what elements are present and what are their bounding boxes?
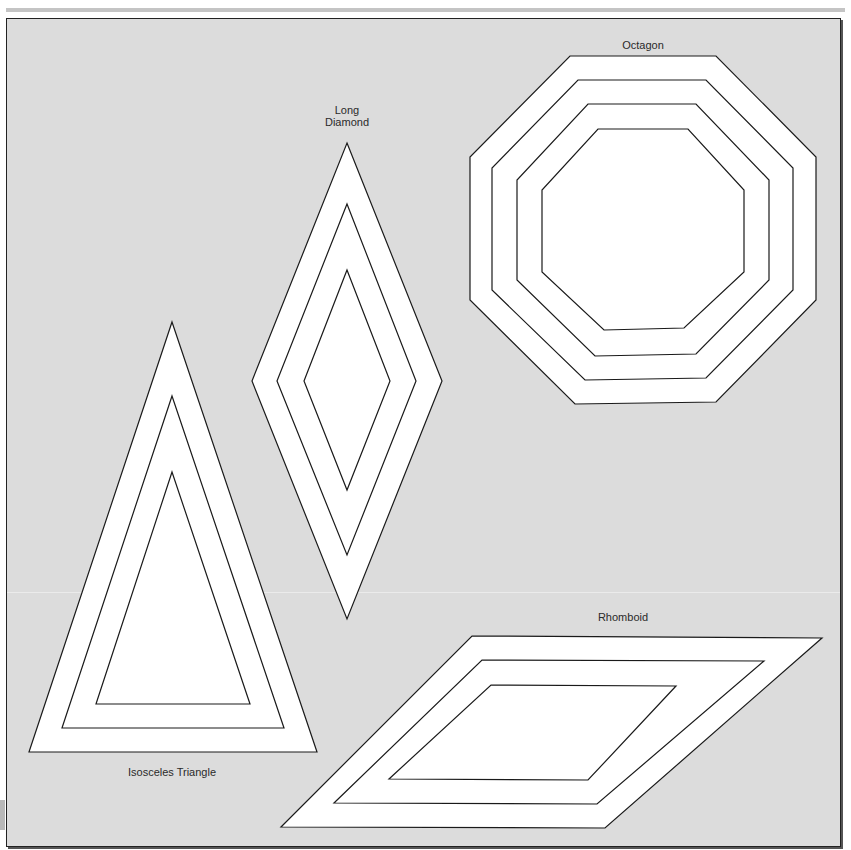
rhomboid-label: Rhomboid	[598, 611, 648, 623]
long-diamond-shape	[252, 143, 442, 619]
isosceles-triangle-label: Isosceles Triangle	[128, 766, 216, 778]
long-diamond-label: Long Diamond	[325, 104, 369, 128]
octagon-label: Octagon	[622, 39, 664, 51]
octagon-ring-4	[542, 129, 744, 330]
shapes-canvas	[0, 0, 851, 850]
octagon-shape	[470, 56, 816, 404]
rhomboid-shape	[281, 636, 822, 828]
